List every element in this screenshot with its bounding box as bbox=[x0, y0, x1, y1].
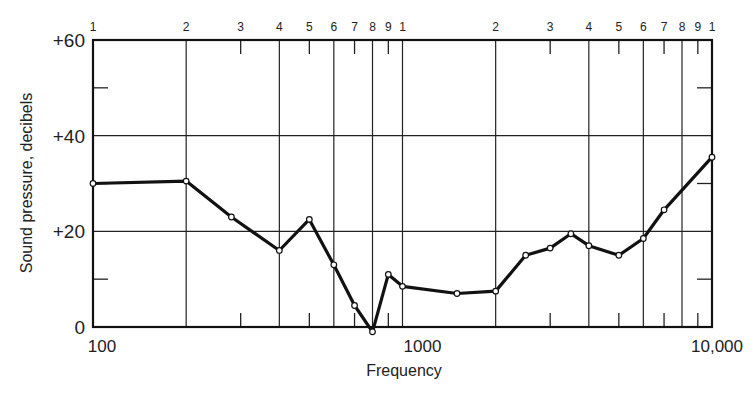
x-top-tick-label: 2 bbox=[183, 20, 190, 34]
data-point-marker bbox=[277, 248, 283, 254]
data-point-marker bbox=[586, 243, 592, 249]
data-point-marker bbox=[568, 231, 574, 237]
x-top-tick-label: 9 bbox=[385, 20, 392, 34]
data-point-marker bbox=[400, 284, 406, 290]
data-point-marker bbox=[331, 262, 337, 268]
x-top-tick-label: 1 bbox=[399, 20, 406, 34]
x-top-tick-label: 4 bbox=[585, 20, 592, 34]
data-point-marker bbox=[352, 303, 358, 309]
data-point-marker bbox=[454, 291, 460, 297]
x-top-tick-label: 6 bbox=[330, 20, 337, 34]
data-point-marker bbox=[523, 252, 529, 258]
data-point-marker bbox=[547, 245, 553, 251]
x-axis-title: Frequency bbox=[366, 362, 442, 379]
data-point-marker bbox=[709, 154, 715, 160]
data-point-marker bbox=[386, 272, 392, 278]
data-point-marker bbox=[641, 236, 647, 242]
x-top-tick-label: 6 bbox=[640, 20, 647, 34]
data-point-marker bbox=[616, 252, 622, 258]
x-bottom-tick-label: 10,000 bbox=[691, 337, 743, 356]
y-tick-label: +60 bbox=[53, 30, 85, 51]
x-top-tick-label: 4 bbox=[276, 20, 283, 34]
x-top-tick-label: 1 bbox=[90, 20, 97, 34]
x-top-tick-label: 3 bbox=[547, 20, 554, 34]
axis-labels: 0+20+40+601234567891234567891100100010,0… bbox=[53, 20, 743, 356]
frequency-response-chart: 0+20+40+601234567891234567891100100010,0… bbox=[0, 0, 756, 395]
y-tick-label: +20 bbox=[53, 221, 85, 242]
x-top-tick-label: 5 bbox=[615, 20, 622, 34]
x-top-tick-label: 8 bbox=[679, 20, 686, 34]
y-tick-label: 0 bbox=[74, 317, 85, 338]
data-point-marker bbox=[183, 178, 189, 184]
x-top-tick-label: 1 bbox=[709, 20, 716, 34]
x-top-tick-label: 5 bbox=[306, 20, 313, 34]
x-bottom-tick-label: 100 bbox=[88, 337, 116, 356]
data-point-marker bbox=[90, 181, 96, 187]
x-top-tick-label: 8 bbox=[369, 20, 376, 34]
x-top-tick-label: 2 bbox=[492, 20, 499, 34]
x-bottom-tick-label: 1000 bbox=[404, 337, 442, 356]
y-tick-label: +40 bbox=[53, 126, 85, 147]
x-top-tick-label: 9 bbox=[694, 20, 701, 34]
data-point-marker bbox=[229, 214, 235, 220]
data-point-marker bbox=[370, 329, 376, 335]
data-point-marker bbox=[661, 207, 667, 213]
y-axis-title: Sound pressure, decibels bbox=[18, 93, 35, 274]
x-top-tick-label: 3 bbox=[237, 20, 244, 34]
x-top-tick-label: 7 bbox=[351, 20, 358, 34]
data-point-marker bbox=[493, 288, 499, 294]
x-top-tick-label: 7 bbox=[661, 20, 668, 34]
data-point-marker bbox=[307, 217, 313, 223]
